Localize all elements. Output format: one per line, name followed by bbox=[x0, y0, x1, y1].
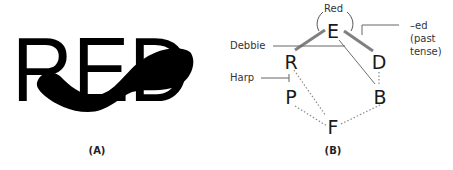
node-d: D bbox=[372, 53, 387, 72]
edge-e-d bbox=[344, 31, 373, 51]
red-input-arc-right bbox=[347, 12, 353, 31]
label-ed-line3: tense) bbox=[410, 46, 442, 58]
node-p: P bbox=[285, 88, 296, 107]
caption-b: (B) bbox=[325, 145, 342, 156]
node-f: F bbox=[328, 118, 339, 137]
label-debbie: Debbie bbox=[230, 40, 265, 52]
caption-a: (A) bbox=[89, 145, 106, 156]
edge-e-b bbox=[339, 40, 375, 84]
edge-e-r bbox=[295, 30, 325, 50]
node-b: B bbox=[373, 88, 386, 107]
edge-b-f bbox=[341, 105, 380, 124]
label-red: Red bbox=[324, 3, 343, 15]
label-ed-line1: –ed bbox=[410, 20, 428, 32]
edge-r-f bbox=[294, 70, 326, 116]
node-r: R bbox=[284, 53, 297, 72]
ed-connector bbox=[362, 25, 399, 35]
panel-a-degraded-word: RED (A) bbox=[0, 0, 227, 170]
red-word-with-blob-graphic: RED bbox=[0, 0, 227, 170]
node-e: E bbox=[327, 22, 339, 41]
label-harp: Harp bbox=[230, 72, 254, 84]
edge-p-f bbox=[295, 106, 327, 126]
panel-b-network-diagram: E R D P B F Red Debbie Harp –ed (past te… bbox=[227, 0, 453, 170]
red-input-arc-left bbox=[317, 12, 323, 31]
label-ed-line2: (past bbox=[410, 33, 436, 45]
